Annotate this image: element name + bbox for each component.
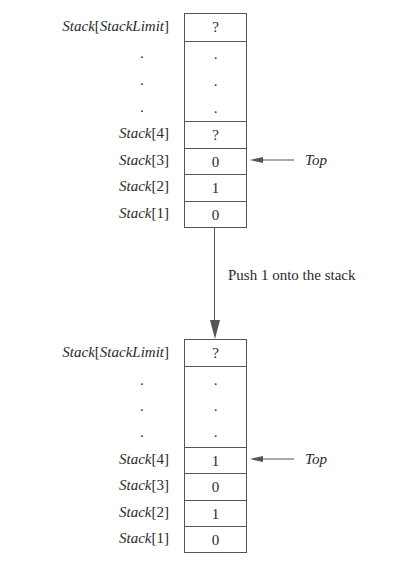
cell-ellipsis-dot: . — [185, 375, 246, 385]
label-index: 2 — [157, 504, 165, 520]
label-stack-2-after: Stack[2] — [119, 499, 169, 525]
cell-ellipsis-dot: . — [185, 49, 246, 59]
stack-box-after: ? . . . 1 0 1 0 — [184, 339, 247, 553]
label-stack-1-after: Stack[1] — [119, 525, 169, 551]
label-name: Stack — [119, 152, 151, 168]
stack-box-before: ? . . . ? 0 1 0 — [184, 13, 247, 228]
label-name: Stack — [119, 178, 151, 194]
label-stack-limit-before: Stack[StackLimit] — [62, 13, 169, 39]
cell-stack-limit: ? — [185, 14, 246, 40]
label-index: 1 — [157, 205, 165, 221]
label-name: Stack — [119, 451, 151, 467]
label-index: StackLimit — [100, 344, 164, 360]
label-stack-4-after: Stack[4] — [119, 446, 169, 472]
cell-stack-1: 0 — [185, 526, 246, 552]
cell-ellipsis-dot: . — [185, 401, 246, 411]
label-ellipsis-dot: . — [140, 401, 144, 411]
cell-stack-3: 0 — [185, 148, 246, 174]
cell-ellipsis-dot: . — [185, 427, 246, 437]
label-ellipsis-dot: . — [140, 75, 144, 85]
transition-label: Push 1 onto the stack — [228, 267, 356, 284]
label-stack-4-before: Stack[4] — [119, 120, 169, 146]
label-ellipsis-dot: . — [140, 375, 144, 385]
label-ellipsis-dot: . — [140, 102, 144, 112]
transition-arrow-head-icon — [209, 320, 221, 339]
cell-stack-2: 1 — [185, 500, 246, 526]
label-stack-2-before: Stack[2] — [119, 173, 169, 199]
label-index: 3 — [157, 477, 165, 493]
label-ellipsis-dot: . — [140, 427, 144, 437]
label-index: 4 — [157, 125, 165, 141]
top-pointer-label-after: Top — [305, 446, 327, 472]
label-index: 1 — [157, 530, 165, 546]
cell-stack-3: 0 — [185, 473, 246, 499]
label-stack-1-before: Stack[1] — [119, 200, 169, 226]
label-name: Stack — [119, 205, 151, 221]
label-stack-3-after: Stack[3] — [119, 472, 169, 498]
label-name: Stack — [119, 477, 151, 493]
label-stack-limit-after: Stack[StackLimit] — [62, 339, 169, 365]
top-pointer-arrow-icon — [250, 147, 294, 173]
cell-stack-2: 1 — [185, 174, 246, 200]
cell-stack-4: ? — [185, 121, 246, 147]
label-ellipsis-dot: . — [140, 48, 144, 58]
label-index: 3 — [157, 152, 165, 168]
label-name: Stack — [62, 344, 94, 360]
label-index: 4 — [157, 451, 165, 467]
top-pointer-label-before: Top — [305, 147, 327, 173]
label-stack-3-before: Stack[3] — [119, 147, 169, 173]
cell-ellipsis-dot: . — [185, 76, 246, 86]
label-name: Stack — [62, 18, 94, 34]
label-index: 2 — [157, 178, 165, 194]
label-name: Stack — [119, 530, 151, 546]
top-pointer-arrow-icon — [250, 446, 294, 472]
label-index: StackLimit — [100, 18, 164, 34]
cell-stack-limit: ? — [185, 340, 246, 366]
cell-stack-4: 1 — [185, 447, 246, 473]
label-name: Stack — [119, 125, 151, 141]
cell-stack-1: 0 — [185, 201, 246, 227]
cell-ellipsis-dot: . — [185, 103, 246, 113]
transition-arrow-line — [214, 228, 215, 326]
label-name: Stack — [119, 504, 151, 520]
